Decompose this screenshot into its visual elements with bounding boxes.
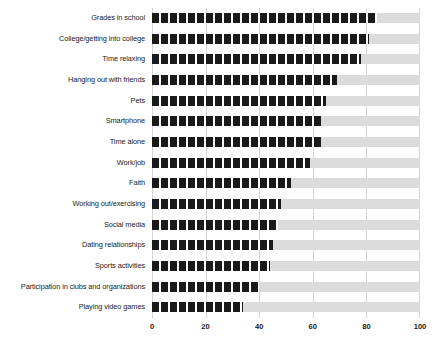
- bar-row: Working out/exercising: [152, 194, 420, 215]
- bar-value: [152, 13, 377, 23]
- category-label: Dating relationships: [82, 235, 145, 256]
- plot-area: Grades in schoolCollege/getting into col…: [152, 8, 420, 318]
- bar-value: [152, 75, 337, 85]
- category-label: Work/job: [117, 153, 145, 174]
- category-label: Grades in school: [91, 8, 145, 29]
- category-label: Playing video games: [79, 297, 145, 318]
- bar-value: [152, 116, 321, 126]
- bar-row: Playing video games: [152, 297, 420, 318]
- bar-value: [152, 54, 361, 64]
- bar-row: Sports activities: [152, 256, 420, 277]
- category-label: Faith: [129, 173, 145, 194]
- bar-value: [152, 240, 273, 250]
- x-tick-label: 0: [150, 322, 154, 331]
- x-axis: 020406080100: [152, 322, 420, 342]
- bar-chart: Grades in schoolCollege/getting into col…: [0, 0, 448, 364]
- category-label: Time alone: [110, 132, 145, 153]
- bar-row: Smartphone: [152, 111, 420, 132]
- category-label: Smartphone: [106, 111, 145, 132]
- bar-value: [152, 261, 270, 271]
- bar-value: [152, 220, 278, 230]
- bar-row: Social media: [152, 215, 420, 236]
- bar-row: Hanging out with friends: [152, 70, 420, 91]
- category-label: Working out/exercising: [73, 194, 145, 215]
- bar-row: Work/job: [152, 153, 420, 174]
- bar-row: Grades in school: [152, 8, 420, 29]
- bar-row: Faith: [152, 173, 420, 194]
- category-label: Time relaxing: [102, 49, 145, 70]
- bar-row: Pets: [152, 91, 420, 112]
- bar-value: [152, 302, 243, 312]
- category-label: College/getting into college: [59, 29, 145, 50]
- bar-value: [152, 158, 310, 168]
- x-tick-label: 60: [309, 322, 317, 331]
- bar-value: [152, 282, 259, 292]
- x-tick-label: 100: [414, 322, 427, 331]
- x-tick-label: 40: [255, 322, 263, 331]
- category-label: Sports activities: [95, 256, 145, 277]
- category-label: Hanging out with friends: [68, 70, 145, 91]
- bar-row: Participation in clubs and organizations: [152, 277, 420, 298]
- x-tick-label: 80: [362, 322, 370, 331]
- bar-value: [152, 199, 281, 209]
- bar-value: [152, 137, 321, 147]
- bar-value: [152, 96, 326, 106]
- category-label: Social media: [104, 215, 145, 236]
- bar-row: Dating relationships: [152, 235, 420, 256]
- bar-value: [152, 178, 291, 188]
- bar-row: Time alone: [152, 132, 420, 153]
- category-label: Participation in clubs and organizations: [21, 277, 145, 298]
- x-tick-label: 20: [201, 322, 209, 331]
- category-label: Pets: [131, 91, 145, 112]
- bar-value: [152, 34, 369, 44]
- bar-row: College/getting into college: [152, 29, 420, 50]
- bar-row: Time relaxing: [152, 49, 420, 70]
- bar-rows: Grades in schoolCollege/getting into col…: [152, 8, 420, 318]
